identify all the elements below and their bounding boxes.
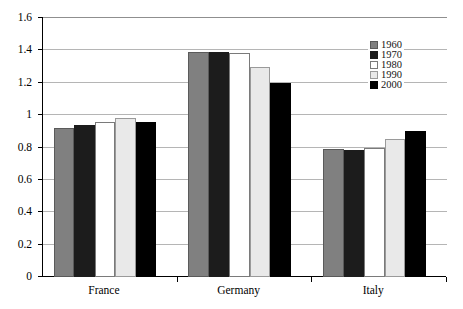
- bar-germany-2000: [270, 83, 291, 277]
- x-tick-label-italy: Italy: [323, 284, 423, 296]
- bar-france-1960: [54, 128, 75, 277]
- bar-germany-1990: [250, 67, 271, 277]
- legend-swatch-2000: [370, 81, 378, 89]
- legend-swatch-1980: [370, 61, 378, 69]
- bar-germany-1970: [209, 52, 230, 277]
- bar-chart: 00.20.40.60.811.21.41.6 FranceGermanyIta…: [0, 0, 463, 309]
- bar-italy-2000: [405, 131, 426, 277]
- y-tick-label: 0.6: [0, 174, 32, 186]
- y-tick-label: 0.4: [0, 206, 32, 218]
- y-tick-label: 0.8: [0, 142, 32, 154]
- legend-swatch-1960: [370, 41, 378, 49]
- bar-france-1970: [74, 125, 95, 277]
- bar-france-2000: [136, 122, 157, 277]
- y-tick-label: 1.6: [0, 12, 32, 24]
- y-tick-label: 1: [0, 109, 32, 121]
- bar-italy-1980: [364, 148, 385, 278]
- x-tick-mark: [446, 277, 447, 282]
- chart-legend: 19601970198019902000: [368, 39, 404, 91]
- x-tick-label-france: France: [54, 284, 154, 296]
- y-tick-label: 0.2: [0, 239, 32, 251]
- bar-italy-1970: [344, 150, 365, 277]
- bar-group-germany: [188, 18, 291, 277]
- y-tick-label: 1.2: [0, 77, 32, 89]
- bar-italy-1960: [323, 149, 344, 277]
- bar-italy-1990: [385, 139, 406, 277]
- bar-france-1980: [95, 122, 116, 277]
- y-tick-label: 1.4: [0, 44, 32, 56]
- x-tick-label-germany: Germany: [189, 284, 289, 296]
- bar-germany-1980: [229, 53, 250, 277]
- bar-germany-1960: [188, 52, 209, 277]
- x-tick-mark: [177, 277, 178, 282]
- legend-swatch-1970: [370, 51, 378, 59]
- x-tick-mark: [311, 277, 312, 282]
- bar-group-france: [54, 18, 157, 277]
- legend-item-2000[interactable]: 2000: [370, 80, 402, 90]
- legend-label-2000: 2000: [381, 80, 402, 90]
- bar-france-1990: [115, 118, 136, 277]
- legend-swatch-1990: [370, 71, 378, 79]
- y-tick-label: 0: [0, 271, 32, 283]
